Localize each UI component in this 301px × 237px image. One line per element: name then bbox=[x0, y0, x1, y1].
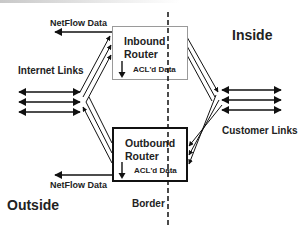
customer-links-label: Customer Links bbox=[222, 125, 298, 136]
inside-region-label: Inside bbox=[232, 27, 272, 43]
netflow-bottom-label: NetFlow Data bbox=[50, 180, 107, 190]
outside-region-label: Outside bbox=[7, 197, 59, 213]
border-label: Border bbox=[132, 198, 165, 209]
internet-links-label: Internet Links bbox=[18, 65, 84, 76]
netflow-top-label: NetFlow Data bbox=[50, 18, 107, 28]
